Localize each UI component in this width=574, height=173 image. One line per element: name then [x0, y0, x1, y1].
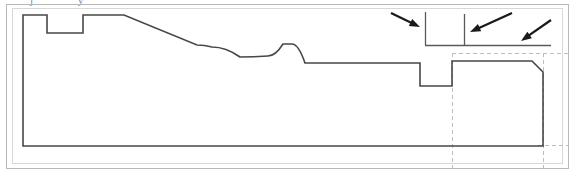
technical-drawing-svg: jy — [0, 0, 574, 173]
canvas-background — [0, 0, 574, 173]
clipped-glyph-1: y — [78, 0, 84, 6]
drawing-canvas: jy — [0, 0, 574, 173]
clipped-glyph-0: j — [29, 0, 33, 6]
